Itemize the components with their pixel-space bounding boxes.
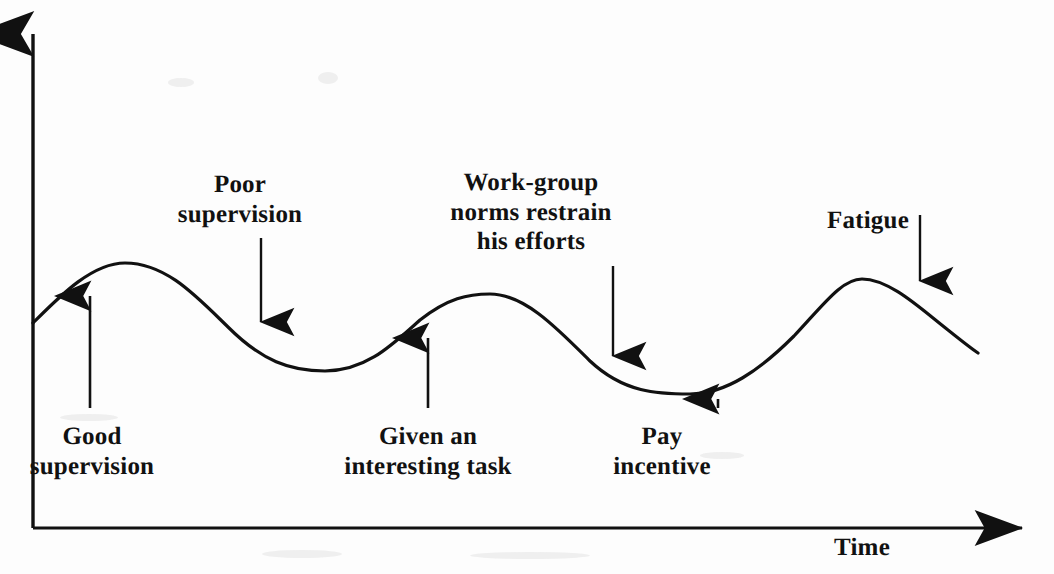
diagram-vector-layer (0, 0, 1054, 574)
annotation-label-work-group-norms: Work-group norms restrain his efforts (450, 168, 611, 257)
figure-canvas: Poor supervision Work-group norms restra… (0, 0, 1054, 574)
annotation-label-good-supervision: Good supervision (30, 422, 154, 481)
annotation-label-pay-incentive: Pay incentive (613, 422, 711, 481)
annotation-label-poor-supervision: Poor supervision (178, 170, 302, 229)
x-axis-label: Time (834, 533, 890, 563)
annotation-label-fatigue: Fatigue (827, 206, 909, 236)
performance-curve (33, 263, 978, 394)
annotation-label-given-interesting-task: Given an interesting task (344, 422, 511, 481)
